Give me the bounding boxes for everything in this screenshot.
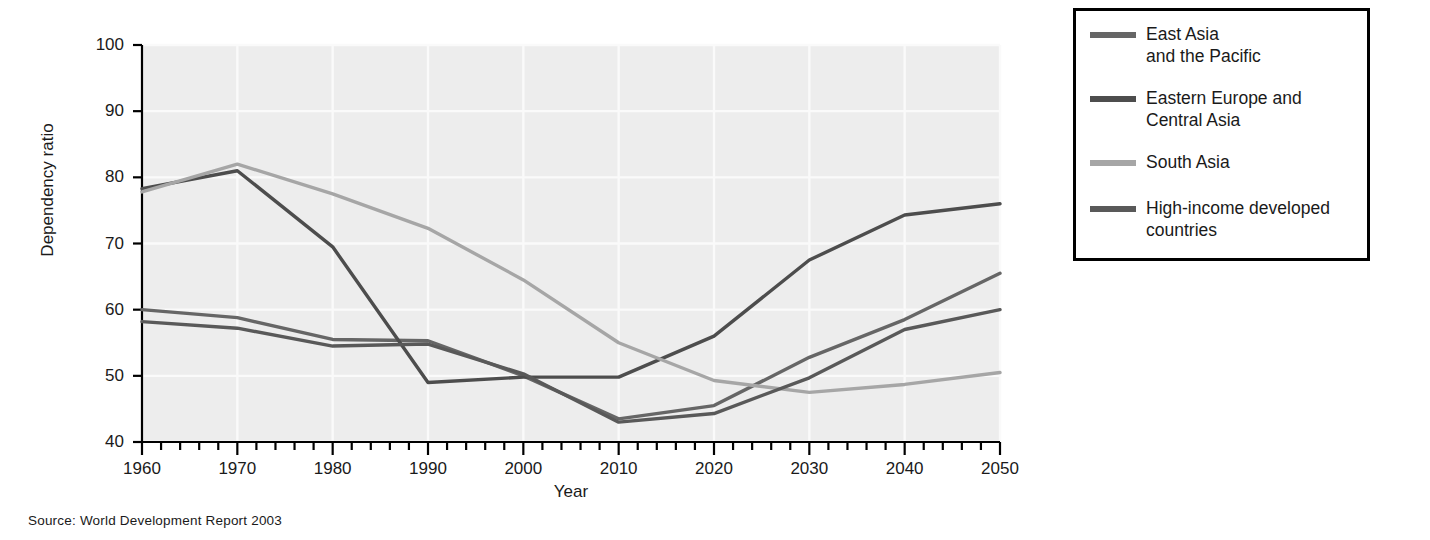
legend-label: High-income developed countries <box>1146 197 1330 241</box>
y-tick-label: 40 <box>78 433 124 450</box>
y-tick-label: 70 <box>78 235 124 252</box>
x-tick-label: 1990 <box>388 460 468 477</box>
legend-swatch-icon <box>1090 160 1136 166</box>
legend-item-3[interactable]: High-income developed countries <box>1090 197 1330 241</box>
x-tick-label: 2040 <box>865 460 945 477</box>
x-tick-label: 2020 <box>674 460 754 477</box>
y-tick-label: 60 <box>78 301 124 318</box>
legend-label: East Asia and the Pacific <box>1146 23 1261 67</box>
legend-item-2[interactable]: South Asia <box>1090 151 1230 173</box>
y-tick-label: 100 <box>78 36 124 53</box>
legend-swatch-icon <box>1090 206 1136 212</box>
legend-swatch-icon <box>1090 32 1136 38</box>
x-axis-title: Year <box>142 482 1000 502</box>
x-tick-label: 2050 <box>960 460 1040 477</box>
x-tick-label: 1980 <box>293 460 373 477</box>
y-tick-label: 80 <box>78 168 124 185</box>
chart-legend: East Asia and the PacificEastern Europe … <box>1073 8 1370 261</box>
x-tick-label: 2000 <box>483 460 563 477</box>
x-tick-label: 1960 <box>102 460 182 477</box>
chart-plot-region: Dependency ratio Year 100908070605040 19… <box>0 0 1040 540</box>
chart-figure: Dependency ratio Year 100908070605040 19… <box>0 0 1430 540</box>
x-tick-label: 1970 <box>197 460 277 477</box>
x-tick-label: 2010 <box>579 460 659 477</box>
y-axis-title: Dependency ratio <box>38 90 58 290</box>
x-tick-label: 2030 <box>769 460 849 477</box>
legend-label: Eastern Europe and Central Asia <box>1146 87 1302 131</box>
legend-item-1[interactable]: Eastern Europe and Central Asia <box>1090 87 1302 131</box>
source-note: Source: World Development Report 2003 <box>28 513 282 528</box>
legend-label: South Asia <box>1146 151 1230 173</box>
legend-swatch-icon <box>1090 96 1136 102</box>
line-chart-svg <box>0 0 1040 500</box>
y-tick-label: 90 <box>78 102 124 119</box>
y-tick-label: 50 <box>78 367 124 384</box>
legend-item-0[interactable]: East Asia and the Pacific <box>1090 23 1261 67</box>
